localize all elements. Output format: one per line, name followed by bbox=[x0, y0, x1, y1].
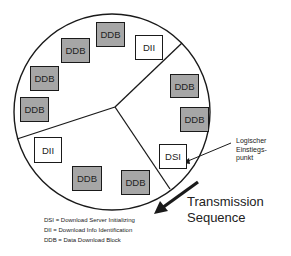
transmission-sequence-label: Transmission Sequence bbox=[187, 194, 264, 226]
ddb-block: DDB bbox=[180, 107, 209, 132]
legend-item-dsi: DSI = Download Server Initializing bbox=[44, 215, 135, 225]
entry-pointer-line bbox=[188, 143, 231, 161]
entry-point-note-line: Logischer bbox=[236, 137, 267, 146]
entry-point-note-line: punkt bbox=[236, 154, 267, 163]
transmission-label-line: Sequence bbox=[187, 210, 264, 226]
ddb-block: DDB bbox=[96, 22, 125, 47]
dsi-block: DSI bbox=[159, 144, 187, 169]
dii-block: DII bbox=[34, 137, 62, 163]
legend: DSI = Download Server Initializing DII =… bbox=[44, 215, 135, 245]
ddb-block: DDB bbox=[20, 97, 49, 122]
ddb-block: DDB bbox=[61, 38, 90, 63]
ddb-block: DDB bbox=[121, 170, 150, 195]
legend-item-ddb: DDB = Data Download Block bbox=[44, 235, 135, 245]
legend-item-dii: DII = Download Info Identification bbox=[44, 225, 135, 235]
transmission-label-line: Transmission bbox=[187, 194, 264, 210]
ddb-block: DDB bbox=[72, 166, 102, 191]
ddb-block: DDB bbox=[30, 66, 59, 91]
entry-point-note: Logischer Einstiegs- punkt bbox=[236, 137, 267, 163]
dii-block: DII bbox=[135, 35, 163, 60]
entry-point-note-line: Einstiegs- bbox=[236, 146, 267, 155]
ddb-block: DDB bbox=[170, 74, 199, 98]
transmission-arrow-head-icon bbox=[154, 201, 168, 214]
